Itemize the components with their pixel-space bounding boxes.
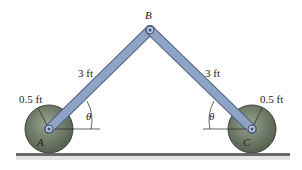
wheel-a-radius-label: 0.5 ft [19, 93, 42, 105]
link-bc-length-label: 3 ft [205, 67, 220, 79]
pin-a [45, 125, 53, 133]
point-label-a: A [36, 136, 44, 148]
pin-b [146, 26, 154, 34]
diagram-svg: B A C 3 ft 3 ft 0.5 ft 0.5 ft θ θ [0, 0, 302, 170]
pin-c [248, 125, 256, 133]
point-label-c: C [243, 136, 251, 148]
link-ab-length-label: 3 ft [78, 67, 93, 79]
angle-label-c: θ [209, 110, 215, 122]
angle-label-a: θ [86, 110, 92, 122]
linkage-diagram: B A C 3 ft 3 ft 0.5 ft 0.5 ft θ θ [0, 0, 302, 170]
point-label-b: B [145, 9, 152, 21]
ground-line [16, 153, 290, 160]
wheel-c-radius-label: 0.5 ft [260, 93, 283, 105]
